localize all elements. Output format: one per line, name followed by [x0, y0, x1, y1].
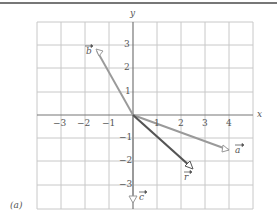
- x-tick: 4: [226, 118, 232, 128]
- y-tick: −1: [119, 132, 132, 142]
- x-tick: 3: [202, 118, 208, 128]
- y-tick: 2: [124, 62, 130, 72]
- y-tick: −3: [119, 179, 132, 189]
- vector-a-arrowhead: [222, 145, 229, 152]
- y-tick: 3: [124, 39, 130, 49]
- vector-b: [97, 51, 133, 115]
- x-tick: −3: [53, 118, 66, 128]
- x-tick: 2: [178, 118, 184, 128]
- y-tick: 1: [125, 86, 131, 96]
- vector-r-label: r: [184, 172, 188, 182]
- x-tick: −2: [77, 118, 90, 128]
- x-axis-label: x: [257, 109, 262, 119]
- vector-b-label: b: [86, 46, 92, 56]
- vector-c-label: c: [139, 192, 144, 202]
- x-tick: 1: [154, 118, 160, 128]
- x-tick: −1: [102, 118, 115, 128]
- vector-c-arrowhead: [129, 196, 137, 203]
- y-tick: −2: [119, 155, 132, 165]
- vector-a-label: a: [235, 145, 240, 155]
- vector-b-arrowhead: [96, 49, 103, 56]
- panel-label: (a): [10, 200, 22, 210]
- y-axis-label: y: [130, 8, 135, 18]
- vector-plot: [0, 0, 277, 221]
